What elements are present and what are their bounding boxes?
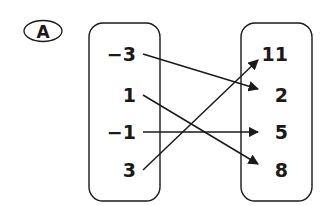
domain-value: 1 [123, 84, 136, 106]
range-value: 5 [275, 121, 288, 143]
range-value: 2 [275, 84, 288, 106]
domain-value: −3 [107, 43, 136, 65]
range-value: 11 [262, 43, 288, 65]
domain-value: 3 [123, 159, 136, 181]
answer-choice[interactable]: A [24, 21, 62, 42]
domain-value: −1 [107, 121, 136, 143]
range-value: 8 [275, 159, 288, 181]
mapping-diagram: A −31−13 11258 [0, 0, 326, 206]
choice-label: A [36, 22, 50, 42]
